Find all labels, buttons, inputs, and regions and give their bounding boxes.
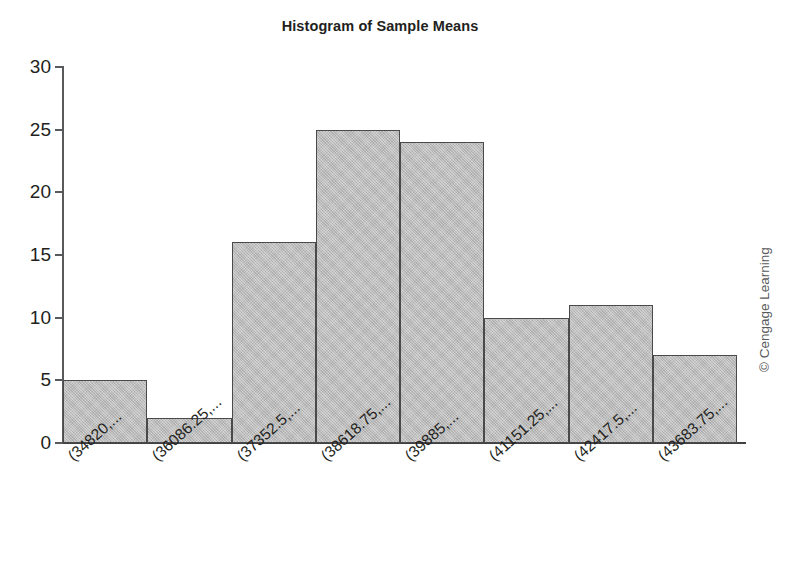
y-axis-tick-label: 20 (11, 182, 51, 201)
y-axis-tick (55, 254, 63, 256)
y-axis-tick-label: 30 (11, 57, 51, 76)
histogram-bar (400, 142, 484, 443)
y-axis-tick (55, 66, 63, 68)
y-axis-tick-label: 5 (11, 370, 51, 389)
histogram-figure: Histogram of Sample Means 051015202530 (… (0, 0, 795, 564)
y-axis-tick-label: 15 (11, 245, 51, 264)
y-axis-tick (55, 442, 63, 444)
y-axis-tick (55, 379, 63, 381)
histogram-bar (232, 242, 316, 443)
y-axis-tick-label: 0 (11, 433, 51, 452)
plot-area (63, 67, 737, 443)
y-axis-tick-label: 25 (11, 120, 51, 139)
chart-title: Histogram of Sample Means (0, 18, 760, 34)
y-axis-tick (55, 129, 63, 131)
y-axis-tick (55, 317, 63, 319)
copyright-credit: © Cengage Learning (757, 247, 772, 372)
histogram-bar (316, 130, 400, 443)
y-axis-tick (55, 191, 63, 193)
y-axis-tick-label: 10 (11, 308, 51, 327)
